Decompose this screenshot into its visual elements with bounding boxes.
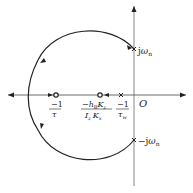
zero-tau-icon <box>54 93 58 97</box>
label-neg-inv-tau: −1 τ <box>49 100 63 119</box>
svg-text:τ: τ <box>52 110 57 119</box>
svg-text:−hBKz: −hBKz <box>82 100 107 110</box>
real-locus-arrow-left-icon <box>48 93 53 97</box>
svg-text:−1: −1 <box>51 100 63 109</box>
label-jwn: jωn <box>137 46 152 57</box>
real-axis <box>8 93 186 98</box>
label-neg-jwn: −jωn <box>138 136 160 147</box>
svg-text:IzKx: IzKx <box>84 111 102 121</box>
right-arrow-icon <box>180 93 186 98</box>
left-arrow-icon <box>8 93 14 98</box>
svg-text:−1: −1 <box>117 100 129 109</box>
up-arrow-icon <box>132 6 137 12</box>
imag-axis <box>132 6 137 186</box>
label-neg-inv-tau-w: −1 τw <box>116 100 129 120</box>
zero-hb-icon <box>98 93 102 97</box>
origin-label: O <box>139 98 147 109</box>
svg-text:−jωn: −jωn <box>138 136 160 147</box>
real-locus-arrow-right-icon <box>104 93 109 97</box>
svg-text:jωn: jωn <box>137 46 152 57</box>
svg-text:τw: τw <box>118 110 127 120</box>
root-locus-diagram: O jωn −jωn −1 τ −hBKz <box>0 0 193 193</box>
label-hb-kz-over-iz-kx: −hBKz IzKx <box>81 100 112 121</box>
arc-arrow-upper-icon <box>40 58 46 63</box>
arc-arrow-lower-icon <box>40 123 44 129</box>
